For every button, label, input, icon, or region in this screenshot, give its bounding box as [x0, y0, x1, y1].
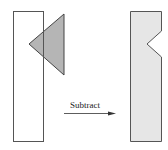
source-rectangle: [14, 12, 44, 142]
arrow-head-icon: [108, 112, 116, 116]
result-shape: [131, 12, 162, 142]
operation-label: Subtract: [70, 100, 100, 110]
subtract-diagram: Subtract: [0, 0, 168, 150]
